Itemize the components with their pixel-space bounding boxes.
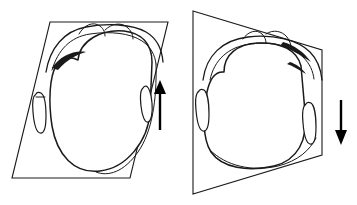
side-tab-right-east [303,102,316,144]
figure-root [0,0,357,205]
side-tab-left-west [33,92,46,133]
right-panel [193,11,347,194]
left-panel [12,22,168,178]
figure-canvas [0,0,357,205]
bag-body-right [204,43,305,169]
down-arrow [335,100,347,145]
down-arrow-head [335,130,347,145]
side-tab-right-west [196,89,209,131]
